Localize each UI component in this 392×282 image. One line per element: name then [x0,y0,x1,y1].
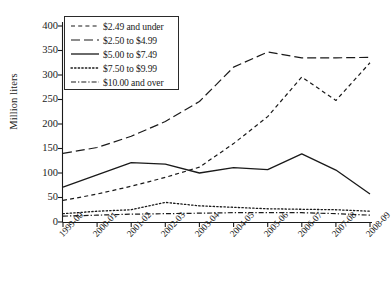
legend-item: $2.49 and under [70,20,164,33]
legend-item-label: $2.50 to $4.99 [103,35,157,46]
dash-dot-key [70,77,100,89]
legend-item: $5.00 to $7.49 [70,48,157,61]
short-dash-key [70,21,100,33]
legend-item: $10.00 and over [70,76,164,89]
dotted-line-key [70,63,100,75]
legend-item-label: $10.00 and over [103,77,164,88]
legend-item: $2.50 to $4.99 [70,34,157,47]
long-dash-key [70,35,100,47]
legend: $2.49 and under $2.50 to $4.99 $5.00 to … [64,16,179,90]
series-line [63,154,370,194]
legend-item-label: $7.50 to $9.99 [103,63,157,74]
legend-item: $7.50 to $9.99 [70,62,157,75]
legend-item-label: $2.49 and under [103,21,164,32]
solid-line-key [70,49,100,61]
y-axis-ticks [58,26,63,222]
legend-item-label: $5.00 to $7.49 [103,49,157,60]
